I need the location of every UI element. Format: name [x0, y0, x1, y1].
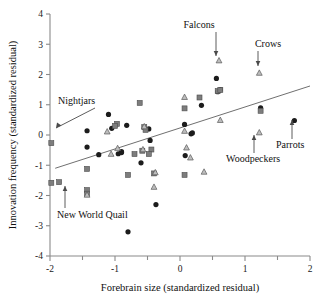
data-point-circle: [138, 160, 143, 165]
data-point-square: [49, 180, 54, 185]
data-point-square: [146, 152, 151, 157]
y-tick-label: -1: [35, 161, 43, 171]
data-point-circle: [148, 138, 153, 143]
annotation-label-crows: Crows: [255, 38, 281, 49]
data-point-triangle: [108, 151, 114, 156]
annotation-arrow-nightjars: [56, 108, 95, 128]
annotation-label-parrots: Parrots: [276, 139, 304, 150]
data-point-circle: [199, 103, 204, 108]
data-point-triangle: [104, 129, 110, 134]
y-tick-label: -4: [35, 251, 43, 261]
data-point-square: [57, 180, 62, 185]
x-tick-label: -2: [46, 264, 54, 274]
data-point-square: [113, 123, 118, 128]
x-tick-label: 2: [308, 264, 313, 274]
x-tick-label: -1: [111, 264, 119, 274]
data-point-square: [182, 172, 187, 177]
annotation-label-woodpeckers: Woodpeckers: [226, 153, 280, 164]
y-tick-label: 4: [38, 9, 43, 19]
data-point-triangle: [182, 128, 188, 133]
x-axis-title: Forebrain size (standardized residual): [101, 282, 260, 294]
annotation-arrowhead-crows: [256, 61, 261, 66]
data-point-triangle: [256, 70, 262, 75]
annotation-arrowhead-woodpeckers: [252, 135, 257, 140]
data-point-square: [218, 87, 223, 92]
data-point-square: [85, 166, 90, 171]
annotation-arrowhead-nightjars: [56, 123, 61, 128]
data-point-square: [137, 100, 142, 105]
data-point-triangle: [217, 117, 223, 122]
data-point-triangle: [184, 145, 190, 150]
data-point-circle: [125, 229, 130, 234]
data-point-square: [126, 172, 131, 177]
scatter-plot-figure: -4-3-2-101234-2-1012Forebrain size (stan…: [0, 0, 328, 307]
data-point-circle: [182, 122, 187, 127]
y-axis-title: Innovation frequency (standardized resid…: [7, 40, 19, 229]
data-point-square: [197, 95, 202, 100]
data-point-circle: [190, 130, 195, 135]
data-point-square: [182, 106, 187, 111]
data-point-circle: [84, 145, 89, 150]
data-point-triangle: [182, 94, 188, 99]
y-tick-label: 3: [38, 40, 43, 50]
y-tick-label: 1: [38, 100, 43, 110]
data-point-circle: [214, 76, 219, 81]
annotation-arrowhead-new-world-quail: [63, 186, 68, 191]
data-point-square: [132, 152, 137, 157]
data-point-circle: [183, 153, 188, 158]
annotation-arrowhead-falcons: [214, 51, 219, 56]
y-tick-label: 2: [38, 70, 43, 80]
data-point-circle: [84, 128, 89, 133]
annotation-label-falcons: Falcons: [183, 19, 214, 30]
annotation-label-new-world-quail: New World Quail: [57, 209, 128, 220]
data-point-circle: [124, 123, 129, 128]
data-point-circle: [153, 202, 158, 207]
data-point-circle: [106, 112, 111, 117]
data-point-triangle: [188, 155, 194, 160]
data-point-triangle: [201, 169, 207, 174]
x-tick-label: 1: [243, 264, 248, 274]
data-point-square: [258, 108, 263, 113]
y-tick-label: 0: [38, 130, 43, 140]
y-tick-label: -2: [35, 191, 43, 201]
x-tick-label: 0: [178, 264, 183, 274]
data-point-triangle: [216, 57, 222, 62]
annotation-label-nightjars: Nightjars: [58, 95, 95, 106]
y-tick-label: -3: [35, 221, 43, 231]
data-point-circle: [96, 152, 101, 157]
data-point-triangle: [256, 129, 262, 134]
data-point-triangle: [151, 184, 157, 189]
chart-canvas: -4-3-2-101234-2-1012Forebrain size (stan…: [0, 0, 328, 307]
data-point-square: [49, 141, 54, 146]
